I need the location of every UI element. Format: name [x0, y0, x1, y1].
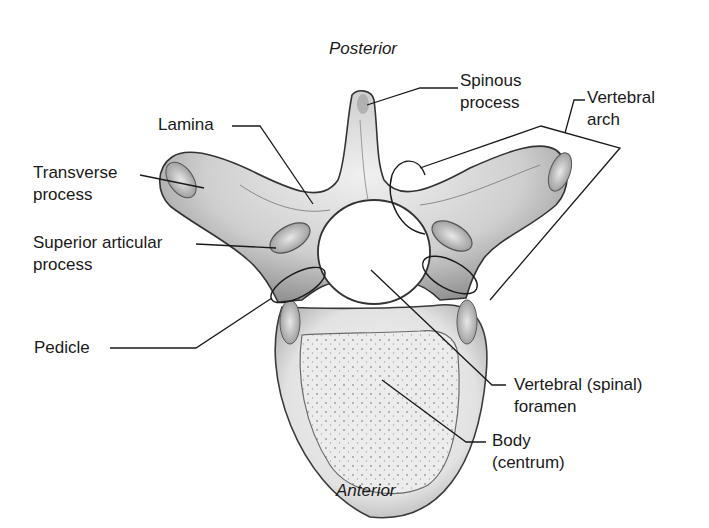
label-lamina: Lamina	[158, 114, 214, 136]
orientation-anterior-label: Anterior	[336, 480, 396, 502]
label-pedicle: Pedicle	[34, 337, 90, 359]
label-spinous-process: Spinous process	[460, 70, 521, 114]
orientation-posterior-label: Posterior	[329, 38, 397, 60]
label-vertebral-arch: Vertebral arch	[587, 87, 655, 131]
vertebra-diagram: Posterior Anterior Spinous process Verte…	[0, 0, 709, 528]
label-transverse-process: Transverse process	[33, 162, 117, 206]
label-superior-articular-process: Superior articular process	[33, 232, 162, 276]
label-vertebral-body: Body (centrum)	[492, 430, 565, 474]
label-vertebral-foramen: Vertebral (spinal) foramen	[514, 374, 643, 418]
